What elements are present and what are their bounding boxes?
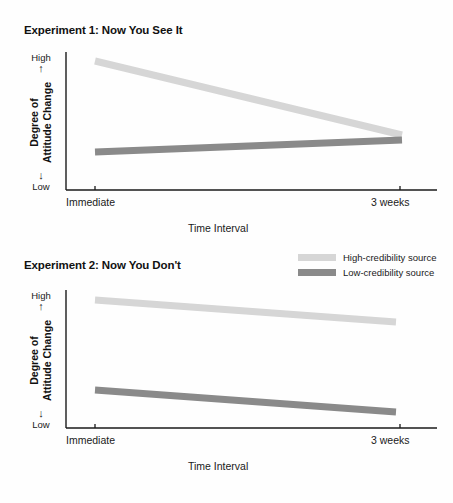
figure-canvas: Experiment 1: Now You See It High ↑ Degr…: [0, 0, 453, 503]
plot-area-1: [0, 0, 453, 248]
series-line-high-credibility-2: [95, 300, 396, 322]
x-axis-title-2: Time Interval: [188, 460, 248, 472]
chart-panel-experiment-2: Experiment 2: Now You Don't High ↑ Degre…: [0, 238, 453, 503]
x-tick-label-3weeks-2: 3 weeks: [371, 434, 410, 446]
chart-panel-experiment-1: Experiment 1: Now You See It High ↑ Degr…: [0, 0, 453, 248]
x-axis-title-1: Time Interval: [188, 222, 248, 234]
x-tick-label-immediate-1: Immediate: [66, 196, 115, 208]
series-line-low-credibility-1: [95, 140, 402, 152]
x-tick-label-immediate-2: Immediate: [66, 434, 115, 446]
x-tick-label-3weeks-1: 3 weeks: [371, 196, 410, 208]
series-line-low-credibility-2: [95, 390, 396, 412]
series-line-high-credibility-1: [95, 61, 402, 135]
